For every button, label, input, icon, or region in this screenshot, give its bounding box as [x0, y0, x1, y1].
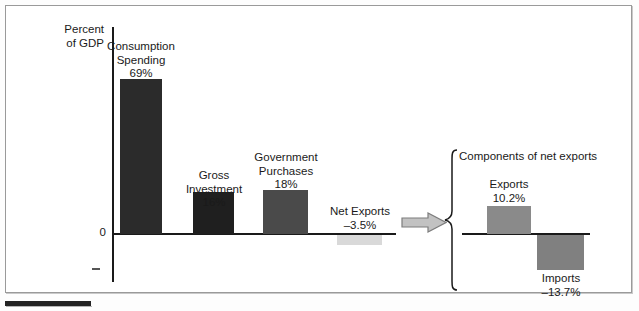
label-investment-line1: Gross: [199, 169, 230, 181]
inset-title: Components of net exports: [459, 150, 597, 162]
label-consumption-spending: Consumption Spending 69%: [70, 40, 212, 81]
value-net-exports: –3.5%: [318, 219, 402, 233]
label-investment-line2: Investment: [186, 183, 242, 195]
frame-shadow-right: [632, 6, 633, 294]
value-gross-investment: 16%: [158, 196, 270, 210]
value-government-purchases: 18%: [240, 178, 332, 192]
bar-consumption-spending: [120, 79, 162, 234]
figure-canvas: Percent of GDP 0 Consumption Spending 69…: [0, 0, 639, 311]
bar-imports: [537, 235, 584, 270]
label-government-line2: Purchases: [259, 165, 313, 177]
negative-tick-mark: [92, 268, 100, 270]
bar-net-exports: [337, 235, 382, 245]
label-imports: Imports –13.7%: [523, 272, 599, 299]
label-consumption-line1: Consumption: [107, 40, 175, 52]
value-imports: –13.7%: [541, 286, 580, 298]
value-exports: 10.2%: [493, 192, 526, 204]
caption-rule-shadow: [6, 306, 92, 307]
y-axis-title-line1: Percent: [26, 22, 104, 36]
label-exports-name: Exports: [490, 178, 529, 190]
label-government-purchases: Government Purchases 18%: [240, 151, 332, 192]
label-government-line1: Government: [254, 151, 317, 163]
label-imports-name: Imports: [542, 272, 580, 284]
label-exports: Exports 10.2%: [471, 178, 547, 205]
label-consumption-line2: Spending: [117, 54, 166, 66]
bar-exports: [487, 206, 531, 234]
zero-tick-label: 0: [90, 226, 106, 238]
arrow-right-icon: [401, 212, 447, 233]
inset-brace-icon: [443, 149, 459, 291]
value-consumption: 69%: [70, 67, 212, 81]
label-netexports-line1: Net Exports: [330, 205, 390, 217]
label-net-exports: Net Exports –3.5%: [318, 205, 402, 232]
